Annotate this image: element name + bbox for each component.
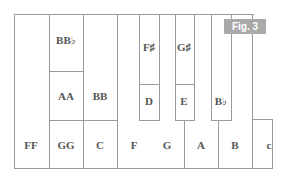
keyboard-diagram: Fig. 3 BB♭ F♯ G♯ AA BB D E B♭ FF GG C F … <box>0 0 304 176</box>
bflat-bottom <box>211 120 232 121</box>
c-key-step <box>253 119 273 120</box>
e-bottom <box>175 120 195 121</box>
key-label-e: E <box>180 96 187 107</box>
divider-gsharp-e <box>175 84 194 85</box>
gsharp-left <box>175 14 176 121</box>
key-label-a: A <box>197 140 205 151</box>
divider-a-b <box>218 120 219 169</box>
divider-fsharp-d <box>139 84 159 85</box>
key-label-c: C <box>96 140 104 151</box>
divider-aa-gg <box>49 120 117 121</box>
bflat-left <box>211 14 212 121</box>
divider-ff-gg <box>49 14 50 169</box>
key-label-fsharp: F♯ <box>143 42 155 53</box>
divider-gg-c <box>83 14 84 169</box>
key-label-gg: GG <box>57 140 74 151</box>
key-label-bbflat: BB♭ <box>56 35 76 46</box>
divider-g-a <box>184 120 185 169</box>
fsharp-left <box>139 14 140 121</box>
key-label-g: G <box>163 140 172 151</box>
key-label-ff: FF <box>24 140 37 151</box>
divider-c-f <box>117 14 118 169</box>
top-border <box>14 14 254 15</box>
key-label-bb: BB <box>93 91 108 102</box>
key-label-c-small: c <box>267 140 272 151</box>
key-label-d: D <box>145 96 153 107</box>
figure-badge: Fig. 3 <box>224 19 266 34</box>
left-border <box>14 14 15 169</box>
c-key-right <box>272 119 273 169</box>
d-bottom <box>139 120 160 121</box>
divider-bbflat-aa <box>49 71 83 72</box>
bottom-border <box>14 168 273 169</box>
key-label-b: B <box>231 140 238 151</box>
key-label-gsharp: G♯ <box>177 42 191 53</box>
key-label-bflat: B♭ <box>215 96 228 107</box>
key-label-aa: AA <box>58 91 74 102</box>
divider-b-c <box>252 14 253 169</box>
gsharp-right <box>194 14 195 121</box>
key-label-f: F <box>131 140 138 151</box>
fsharp-right <box>159 14 160 121</box>
